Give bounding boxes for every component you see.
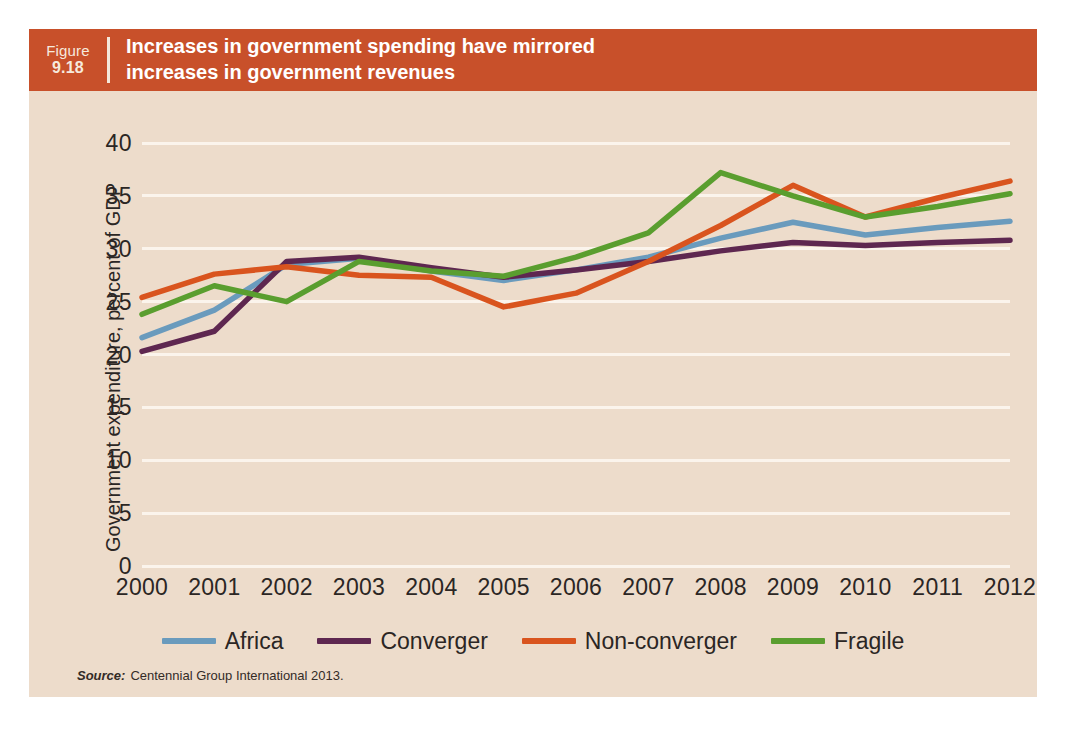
x-tick-label: 2009 bbox=[753, 574, 833, 601]
x-axis-tick-labels: 2000200120022003200420052006200720082009… bbox=[142, 574, 1010, 608]
legend-swatch bbox=[317, 638, 371, 644]
x-tick-label: 2001 bbox=[174, 574, 254, 601]
x-tick-label: 2005 bbox=[464, 574, 544, 601]
plot-lines bbox=[142, 143, 1010, 566]
x-tick-label: 2008 bbox=[681, 574, 761, 601]
chart-legend: AfricaConvergerNon-convergerFragile bbox=[29, 624, 1037, 658]
x-tick-label: 2012 bbox=[970, 574, 1050, 601]
x-tick-label: 2007 bbox=[608, 574, 688, 601]
source-label: Source: bbox=[77, 668, 125, 683]
legend-item-converger[interactable]: Converger bbox=[317, 628, 487, 655]
x-tick-label: 2010 bbox=[825, 574, 905, 601]
y-tick-label: 15 bbox=[86, 394, 132, 421]
figure-header-bar: Figure 9.18 Increases in government spen… bbox=[29, 29, 1037, 91]
y-tick-label: 30 bbox=[86, 235, 132, 262]
chart-body: Government expenditure, percent of GDP 0… bbox=[29, 91, 1037, 697]
figure-number-block: Figure 9.18 bbox=[29, 29, 107, 91]
legend-label: Non-converger bbox=[585, 628, 737, 655]
plot-area bbox=[142, 143, 1010, 566]
figure-title-line-2: increases in government revenues bbox=[126, 60, 1037, 86]
x-tick-label: 2011 bbox=[898, 574, 978, 601]
legend-swatch bbox=[162, 638, 216, 644]
y-tick-label: 40 bbox=[86, 130, 132, 157]
y-tick-label: 5 bbox=[86, 500, 132, 527]
x-tick-label: 2003 bbox=[319, 574, 399, 601]
x-tick-label: 2000 bbox=[102, 574, 182, 601]
legend-swatch bbox=[771, 638, 825, 644]
figure-label: Figure bbox=[46, 43, 90, 60]
x-tick-label: 2006 bbox=[536, 574, 616, 601]
y-axis-tick-labels: 0510152025303540 bbox=[76, 143, 132, 566]
source-note: Source:Centennial Group International 20… bbox=[77, 668, 344, 683]
legend-label: Africa bbox=[225, 628, 284, 655]
source-text: Centennial Group International 2013. bbox=[130, 668, 343, 683]
y-tick-label: 20 bbox=[86, 341, 132, 368]
x-tick-label: 2002 bbox=[247, 574, 327, 601]
figure-title: Increases in government spending have mi… bbox=[110, 29, 1037, 91]
legend-item-africa[interactable]: Africa bbox=[162, 628, 284, 655]
figure-card: Figure 9.18 Increases in government spen… bbox=[29, 29, 1037, 697]
legend-swatch bbox=[522, 638, 576, 644]
series-line-africa bbox=[142, 221, 1010, 337]
figure-title-line-1: Increases in government spending have mi… bbox=[126, 34, 1037, 60]
legend-item-fragile[interactable]: Fragile bbox=[771, 628, 904, 655]
legend-label: Converger bbox=[380, 628, 487, 655]
x-tick-label: 2004 bbox=[391, 574, 471, 601]
legend-label: Fragile bbox=[834, 628, 904, 655]
y-tick-label: 35 bbox=[86, 182, 132, 209]
y-tick-label: 10 bbox=[86, 447, 132, 474]
figure-number: 9.18 bbox=[52, 59, 84, 77]
y-tick-label: 25 bbox=[86, 288, 132, 315]
legend-item-non-converger[interactable]: Non-converger bbox=[522, 628, 737, 655]
